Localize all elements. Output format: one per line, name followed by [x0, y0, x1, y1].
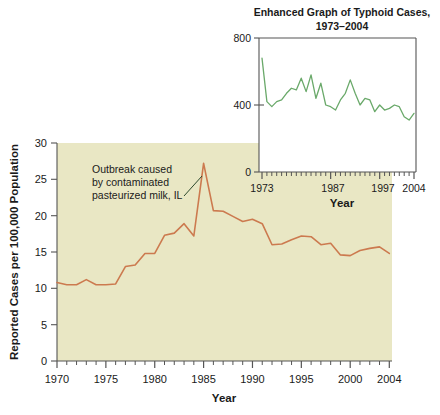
- inset-y-tick-label-800: 800: [233, 32, 251, 44]
- main-x-tick-label-1970: 1970: [45, 373, 69, 385]
- main-y-tick-label-5: 5: [41, 319, 47, 331]
- main-chart: 30 25 20 15 10 5 0 Reported Cases per 10…: [8, 137, 402, 404]
- main-x-tick-label-1990: 1990: [240, 373, 264, 385]
- inset-y-tick-label-0: 0: [245, 166, 251, 178]
- inset-x-axis-title: Year: [330, 197, 355, 209]
- annotation-line-2: by contaminated: [92, 176, 169, 188]
- main-y-tick-label-25: 25: [35, 173, 47, 185]
- main-x-tick-labels: 1970 1975 1980 1985 1990 1995 2000 2004: [45, 373, 402, 385]
- main-y-tick-label-20: 20: [35, 210, 47, 222]
- inset-x-tick-label-1997: 1997: [371, 182, 395, 194]
- typhoid-cases-figure: 30 25 20 15 10 5 0 Reported Cases per 10…: [0, 0, 440, 415]
- inset-x-tick-label-1987: 1987: [321, 182, 345, 194]
- main-x-tick-label-1995: 1995: [289, 373, 313, 385]
- inset-title-line-2: 1973–2004: [316, 20, 369, 32]
- main-x-tick-label-2004: 2004: [377, 373, 401, 385]
- main-y-axis-title: Reported Cases per 100,000 Population: [8, 144, 20, 360]
- main-x-tick-label-1985: 1985: [191, 373, 215, 385]
- main-x-minor-ticks: [67, 361, 380, 365]
- annotation-line-3: pasteurized milk, IL: [92, 189, 183, 201]
- main-y-tick-labels: 30 25 20 15 10 5 0: [35, 137, 47, 367]
- main-y-tick-label-10: 10: [35, 282, 47, 294]
- figure-canvas: 30 25 20 15 10 5 0 Reported Cases per 10…: [0, 0, 440, 415]
- main-x-tick-label-1980: 1980: [142, 373, 166, 385]
- main-x-tick-label-2000: 2000: [338, 373, 362, 385]
- inset-title-line-1: Enhanced Graph of Typhoid Cases,: [254, 6, 431, 18]
- main-x-tick-label-1975: 1975: [94, 373, 118, 385]
- inset-y-tick-label-400: 400: [233, 99, 251, 111]
- main-y-tick-label-15: 15: [35, 246, 47, 258]
- main-y-ticks: [51, 143, 57, 361]
- inset-x-tick-label-1973: 1973: [250, 182, 274, 194]
- annotation-line-1: Outbreak caused: [92, 163, 172, 175]
- main-y-tick-label-30: 30: [35, 137, 47, 149]
- main-y-tick-label-0: 0: [41, 355, 47, 367]
- main-x-axis-title: Year: [212, 392, 237, 404]
- inset-x-tick-label-2004: 2004: [402, 182, 426, 194]
